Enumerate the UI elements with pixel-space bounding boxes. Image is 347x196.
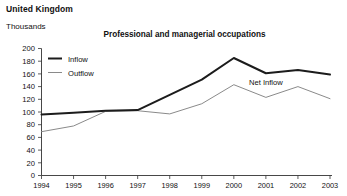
- x-tick-label: 1994: [33, 181, 49, 190]
- x-tick-label: 1997: [129, 181, 145, 190]
- chart-container: United Kingdom Thousands Professional an…: [0, 0, 347, 196]
- series-line-outflow: [42, 85, 331, 132]
- y-axis-ticks: 020406080100120140160180200: [22, 44, 41, 180]
- y-tick-label: 0: [31, 171, 35, 180]
- y-tick-label: 60: [27, 133, 35, 142]
- x-tick-label: 1999: [194, 181, 210, 190]
- legend-label-outflow: Outflow: [68, 69, 94, 78]
- x-axis-ticks: 1994199519961997199819992000200120022003: [33, 176, 338, 191]
- x-tick-label: 2002: [290, 181, 306, 190]
- y-tick-label: 120: [22, 95, 35, 104]
- x-tick-label: 1998: [161, 181, 177, 190]
- x-tick-label: 1995: [65, 181, 81, 190]
- y-tick-label: 100: [22, 108, 35, 117]
- legend-label-inflow: Inflow: [68, 55, 88, 64]
- chart-legend: Inflow Outflow: [48, 55, 94, 78]
- x-tick-label: 2000: [226, 181, 242, 190]
- y-tick-label: 140: [22, 82, 35, 91]
- y-tick-label: 200: [22, 44, 35, 53]
- x-tick-label: 1996: [97, 181, 113, 190]
- y-tick-label: 80: [27, 120, 35, 129]
- y-tick-label: 180: [22, 57, 35, 66]
- annotation-net-inflow: Net Inflow: [249, 78, 283, 87]
- x-tick-label: 2001: [258, 181, 274, 190]
- series-line-inflow: [42, 58, 331, 115]
- y-tick-label: 40: [27, 146, 35, 155]
- y-tick-label: 160: [22, 70, 35, 79]
- x-tick-label: 2003: [322, 181, 338, 190]
- line-chart-plot: 020406080100120140160180200 199419951996…: [0, 0, 347, 196]
- y-tick-label: 20: [27, 159, 35, 168]
